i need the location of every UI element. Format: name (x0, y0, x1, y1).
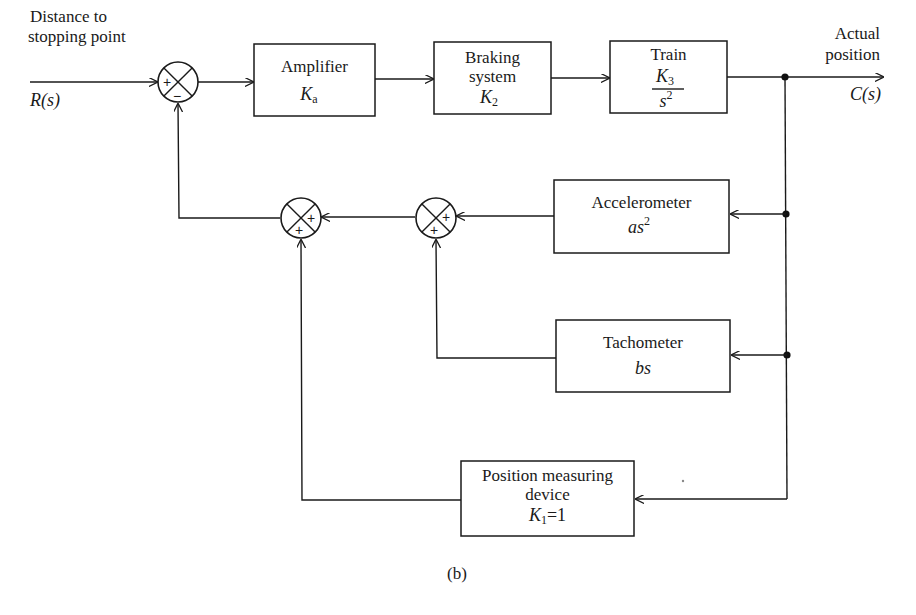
plus-sign: + (295, 222, 303, 238)
figure-caption: (b) (447, 564, 467, 583)
pickoff-dot-output (781, 73, 788, 80)
output-symbol: C(s) (850, 84, 881, 105)
output-label-line2: position (825, 45, 880, 64)
input-symbol: R(s) (29, 90, 60, 111)
accelerometer-block: Accelerometer as2 (554, 180, 729, 253)
amplifier-label: Amplifier (281, 57, 348, 76)
summing-junction-inner-feedback: + + (416, 198, 456, 238)
position-device-label-line1: Position measuring (482, 466, 613, 485)
position-measuring-device-block: Position measuring device K1=1 (461, 461, 634, 536)
plus-sign: + (307, 210, 315, 226)
block-diagram: + − + + + + Amplifier Ka Braking system … (0, 0, 916, 615)
braking-label-line2: system (469, 67, 516, 86)
tachometer-to-inner-sum-arrow (436, 240, 556, 358)
tachometer-block: Tachometer bs (556, 320, 730, 392)
print-speck (682, 480, 684, 482)
output-label-line1: Actual (835, 24, 881, 43)
position-device-label-line2: device (525, 485, 569, 504)
summing-junction-outer-feedback: + + (281, 198, 321, 238)
plus-sign: + (430, 222, 438, 238)
accelerometer-label: Accelerometer (591, 193, 691, 212)
train-block: Train K3 s2 (610, 41, 727, 113)
summing-junction-main: + − (158, 62, 198, 104)
tachometer-label: Tachometer (603, 333, 683, 352)
amplifier-block: Amplifier Ka (254, 44, 375, 116)
input-label-line2: stopping point (28, 27, 126, 46)
braking-label-line1: Braking (465, 48, 520, 67)
braking-system-block: Braking system K2 (434, 42, 551, 114)
feedback-to-main-sum-arrow (178, 104, 280, 218)
input-label-line1: Distance to (30, 7, 107, 26)
train-label: Train (650, 45, 687, 64)
plus-sign: + (442, 209, 450, 225)
position-device-gain: K1=1 (528, 505, 566, 527)
pickoff-line (785, 77, 787, 499)
tachometer-tf: bs (635, 358, 651, 378)
plus-sign: + (163, 74, 171, 90)
minus-sign: − (173, 88, 181, 104)
